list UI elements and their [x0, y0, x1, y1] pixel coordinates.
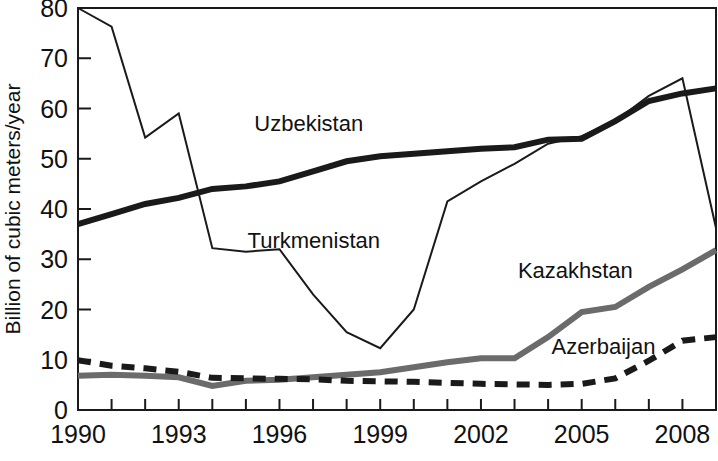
- x-tick-label-1990: 1990: [50, 420, 106, 448]
- series-label-uzbekistan: Uzbekistan: [254, 111, 363, 136]
- series-label-azerbaijan: Azerbaijan: [551, 334, 655, 359]
- x-tick-label-1999: 1999: [352, 420, 408, 448]
- x-tick-label-2002: 2002: [453, 420, 509, 448]
- chart-container: 0102030405060708019901993199619992002200…: [0, 0, 718, 461]
- line-chart: 0102030405060708019901993199619992002200…: [0, 0, 718, 461]
- y-tick-label-20: 20: [40, 296, 68, 324]
- series-line-turkmenistan: [78, 8, 716, 348]
- series-label-turkmenistan: Turkmenistan: [248, 228, 380, 253]
- y-tick-label-50: 50: [40, 145, 68, 173]
- y-tick-label-80: 80: [40, 0, 68, 22]
- y-tick-label-70: 70: [40, 44, 68, 72]
- y-tick-label-30: 30: [40, 245, 68, 273]
- y-tick-label-60: 60: [40, 95, 68, 123]
- series-line-uzbekistan: [78, 88, 716, 224]
- y-tick-label-40: 40: [40, 195, 68, 223]
- x-tick-label-1996: 1996: [252, 420, 308, 448]
- data-series: [78, 8, 716, 386]
- x-tick-label-1993: 1993: [151, 420, 207, 448]
- series-label-kazakhstan: Kazakhstan: [518, 258, 633, 283]
- y-tick-label-10: 10: [40, 346, 68, 374]
- y-axis-title-text: Billion of cubic meters/year: [1, 84, 24, 335]
- x-tick-label-2008: 2008: [655, 420, 711, 448]
- x-tick-label-2005: 2005: [554, 420, 610, 448]
- y-axis-title: Billion of cubic meters/year: [1, 84, 24, 335]
